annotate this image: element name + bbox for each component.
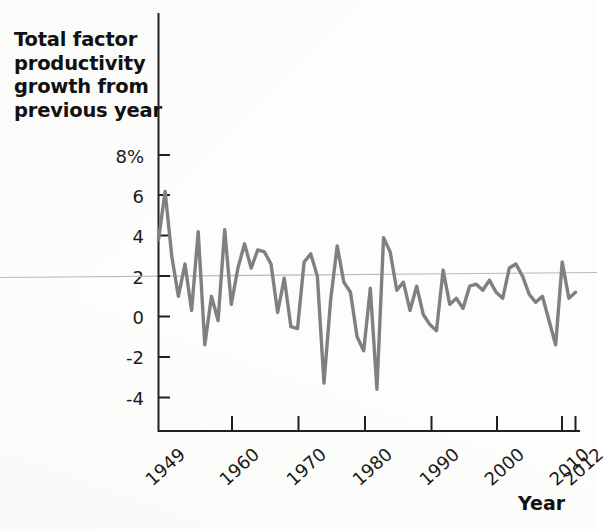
data-series-line [159,191,576,389]
x-axis-ticks [232,416,576,431]
